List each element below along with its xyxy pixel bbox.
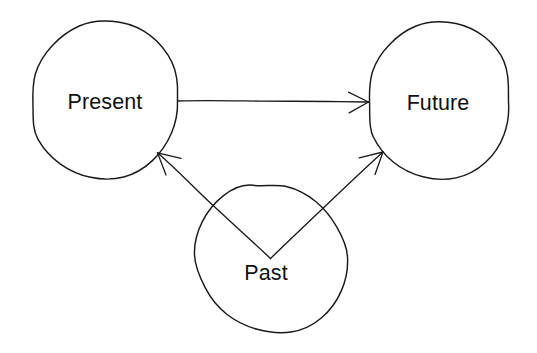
diagram-svg: Present Future Past [0,0,537,353]
past-label: Past [244,261,287,285]
node-future[interactable]: Future [369,22,508,180]
future-label: Future [407,91,470,115]
diagram-canvas: Present Future Past [0,0,537,353]
present-to-future-line [178,101,369,102]
node-present[interactable]: Present [33,21,178,179]
present-label: Present [68,90,143,114]
edge-present-to-future[interactable] [178,92,369,113]
